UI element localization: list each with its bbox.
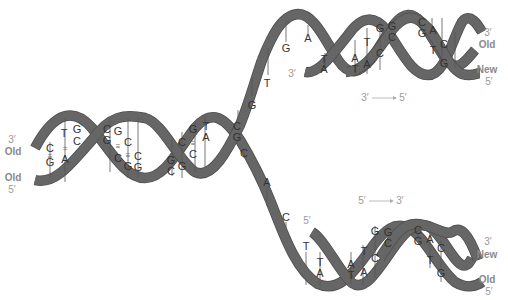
dna-replication-diagram: C G T A G C C G G C C G C G G C C G G C …	[0, 0, 508, 300]
base-letter: A	[363, 58, 371, 70]
svg-text:≡: ≡	[48, 152, 53, 161]
base-letter: G	[418, 27, 427, 39]
base-letter: G	[178, 160, 187, 172]
direction-end: 3′	[396, 195, 404, 206]
base-letter: A	[426, 233, 434, 245]
base-letter: C	[178, 136, 186, 148]
base-letter: G	[437, 267, 446, 279]
direction-end: 5′	[399, 92, 407, 103]
label-3prime: 3′	[484, 27, 492, 38]
svg-text:=: =	[63, 144, 68, 153]
label-old: Old	[5, 172, 22, 183]
base-letter: G	[124, 160, 133, 172]
base-letter: C	[240, 147, 248, 159]
base-letter: C	[124, 136, 132, 148]
label-5prime: 5′	[485, 286, 493, 297]
base-letter: C	[114, 152, 122, 164]
label-3prime: 3′	[288, 68, 296, 79]
svg-text:≡: ≡	[191, 139, 196, 148]
base-letter: T	[427, 254, 434, 266]
base-letter: C	[437, 242, 445, 254]
base-letter: G	[282, 42, 291, 54]
label-new: New	[477, 249, 498, 260]
base-letter: G	[189, 123, 198, 135]
label-3prime: 3′	[484, 236, 492, 247]
svg-text:≡: ≡	[116, 142, 121, 151]
base-letter: G	[248, 99, 257, 111]
base-letter: T	[361, 245, 368, 257]
label-old: Old	[5, 146, 22, 157]
base-letter: G	[114, 125, 123, 137]
base-letter: A	[61, 153, 69, 165]
base-letter: A	[316, 267, 324, 279]
label-old: Old	[479, 39, 496, 50]
direction-start: 5′	[358, 195, 366, 206]
base-letter: G	[376, 22, 385, 34]
base-letter: C	[167, 165, 175, 177]
base-letter: G	[414, 235, 423, 247]
base-letter: G	[134, 161, 143, 173]
base-letter: G	[233, 131, 242, 143]
base-letter: C	[73, 135, 81, 147]
label-5prime: 5′	[8, 184, 16, 195]
base-letter: T	[61, 127, 68, 139]
base-letter: A	[360, 266, 368, 278]
label-new: New	[477, 64, 498, 75]
base-letter: A	[202, 131, 210, 143]
base-letter: G	[440, 57, 449, 69]
base-letter: C	[376, 47, 384, 59]
base-letter: A	[429, 24, 437, 36]
base-letter: T	[352, 63, 359, 75]
svg-text:≡: ≡	[180, 152, 185, 161]
base-letter: C	[440, 38, 448, 50]
base-letter: A	[263, 176, 271, 188]
base-letter: C	[388, 31, 396, 43]
parent-helix: C G T A G C C G G C C G C G G C C G G C …	[5, 60, 270, 200]
label-3prime: 3′	[8, 134, 16, 145]
base-letter: C	[384, 237, 392, 249]
base-letter: G	[103, 134, 112, 146]
base-letter: T	[303, 240, 310, 252]
base-letter: T	[264, 77, 271, 89]
base-letter: A	[320, 63, 328, 75]
base-letter: G	[371, 225, 380, 237]
label-5prime: 5′	[303, 215, 311, 226]
base-letter: T	[430, 44, 437, 56]
base-letter: T	[364, 36, 371, 48]
base-letter: T	[348, 269, 355, 281]
base-letter: A	[304, 32, 312, 44]
svg-text:≡: ≡	[126, 151, 131, 160]
label-5prime: 5′	[485, 76, 493, 87]
base-letter: G	[73, 123, 82, 135]
direction-start: 3′	[361, 92, 369, 103]
base-letter: C	[371, 252, 379, 264]
label-old: Old	[479, 274, 496, 285]
base-letter: C	[189, 148, 197, 160]
